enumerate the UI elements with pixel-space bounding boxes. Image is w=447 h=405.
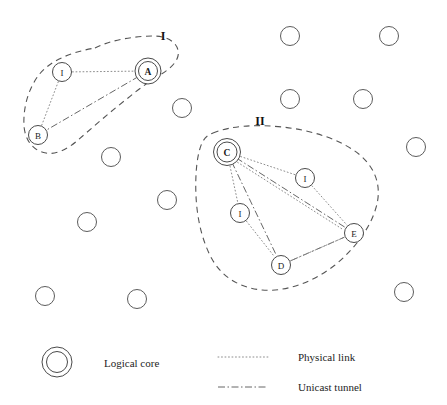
node-label: E: [351, 229, 357, 239]
plain-node: [78, 213, 97, 232]
network-topology-figure: IABCIIED III Logical corePhysical linkUn…: [0, 0, 447, 405]
legend-logical-core-label: Logical core: [104, 357, 159, 369]
link-D-E: [291, 237, 345, 261]
node-label: D: [278, 261, 285, 271]
cluster-outlines-layer: [24, 36, 378, 290]
plain-node: [407, 138, 426, 157]
node-label: I: [61, 68, 64, 78]
node-label: I: [304, 174, 307, 184]
node-C: C: [214, 139, 241, 166]
tunnel-C-E: [236, 158, 345, 227]
link-I2-E: [312, 186, 347, 225]
node-A: A: [135, 58, 161, 84]
legend-physical-link-label: Physical link: [298, 351, 356, 363]
legend-layer: Logical corePhysical linkUnicast tunnel: [42, 347, 362, 393]
diagram-canvas: IABCIIED III Logical corePhysical linkUn…: [0, 0, 447, 405]
plain-node: [158, 191, 177, 210]
cluster-1-label: I: [161, 29, 166, 43]
plain-nodes-layer: [36, 27, 426, 309]
plain-node: [36, 287, 55, 306]
node-label: B: [35, 131, 41, 141]
plain-node: [173, 99, 192, 118]
node-label: I: [239, 209, 242, 219]
plain-node: [281, 27, 300, 46]
link-I3-D: [247, 221, 275, 257]
link-I1-A: [72, 71, 137, 72]
plain-node: [281, 90, 300, 109]
node-B: B: [29, 126, 48, 145]
node-I2: I: [296, 169, 315, 188]
legend-unicast-tunnel-label: Unicast tunnel: [298, 381, 362, 393]
node-E: E: [345, 224, 364, 243]
plain-node: [102, 148, 121, 167]
plain-node: [354, 90, 373, 109]
node-label: C: [224, 148, 231, 158]
node-I3: I: [231, 204, 250, 223]
plain-node: [395, 283, 414, 302]
node-D: D: [272, 256, 291, 275]
link-C-I2: [237, 155, 295, 174]
logical-core-icon-inner: [47, 352, 68, 373]
node-I1: I: [53, 63, 72, 82]
plain-node: [128, 290, 147, 309]
node-label: A: [145, 67, 152, 77]
link-C-E: [235, 160, 344, 229]
physical-links-layer: [42, 71, 347, 261]
link-C-I3: [229, 163, 238, 203]
tunnel-A-B: [47, 76, 139, 129]
plain-node: [380, 27, 399, 46]
cluster-2-label: II: [255, 114, 265, 128]
link-I1-B: [42, 82, 59, 125]
labeled-nodes-layer: IABCIIED: [29, 58, 364, 275]
